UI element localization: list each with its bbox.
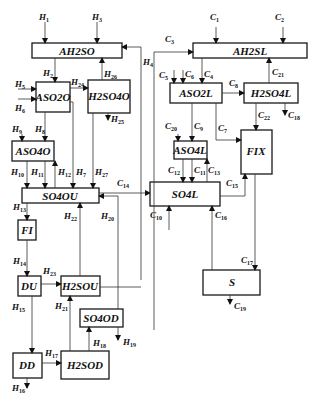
label-c9: C9 (194, 121, 203, 132)
svg-text:H2SOD: H2SOD (66, 359, 103, 371)
label-h1: H1 (38, 12, 49, 23)
box-aso2o: ASO2O (35, 82, 71, 112)
svg-text:FI: FI (20, 224, 33, 236)
box-fix: FIX (241, 130, 272, 174)
box-so4l: SO4L (150, 182, 220, 206)
flow-diagram: AH2SO ASO2O H2SO4O ASO4O SO4OU FI DU H2S… (0, 0, 316, 398)
label-h21: H21 (54, 301, 68, 312)
svg-text:H2SO4L: H2SO4L (250, 87, 292, 99)
svg-text:ASO2O: ASO2O (35, 91, 71, 103)
label-h17: H17 (44, 348, 58, 359)
label-c21: C21 (272, 67, 284, 78)
label-h2: H2 (42, 68, 53, 79)
label-h27: H27 (94, 167, 108, 178)
label-c11: C11 (194, 165, 206, 176)
label-c10: C10 (150, 210, 162, 221)
label-h15: H15 (11, 302, 25, 313)
label-h20: H20 (100, 211, 114, 222)
label-c7: C7 (218, 123, 227, 134)
svg-text:H2SO4O: H2SO4O (87, 90, 130, 102)
label-h24: H24 (70, 77, 84, 88)
label-h8: H8 (34, 124, 45, 135)
label-h9: H9 (11, 124, 22, 135)
label-h3: H3 (91, 12, 102, 23)
label-h25: H25 (110, 114, 124, 125)
svg-text:SO4OU: SO4OU (42, 190, 79, 202)
label-h4: H4 (142, 57, 153, 68)
label-h26: H26 (103, 69, 117, 80)
svg-text:ASO4O: ASO4O (15, 145, 51, 157)
box-aso4l: ASO4L (172, 141, 207, 159)
label-h19: H19 (122, 337, 136, 348)
svg-text:DU: DU (20, 280, 38, 292)
label-c22: C22 (258, 110, 270, 121)
label-c20: C20 (165, 121, 177, 132)
box-fi: FI (18, 220, 36, 240)
label-h12: H12 (57, 167, 71, 178)
box-s: S (203, 270, 260, 295)
box-ah2so: AH2SO (32, 43, 122, 58)
svg-text:FIX: FIX (246, 145, 267, 157)
label-c1: C1 (210, 12, 219, 23)
box-h2so4o: H2SO4O (87, 80, 130, 113)
label-h14: H14 (12, 256, 26, 267)
label-c5: C5 (159, 70, 168, 81)
label-h16: H16 (11, 383, 25, 394)
box-aso2l: ASO2L (170, 83, 222, 103)
label-c18: C18 (288, 110, 300, 121)
svg-text:S: S (229, 276, 235, 288)
box-ah2sl: AH2SL (193, 43, 307, 58)
box-du: DU (18, 276, 41, 296)
label-h11: H11 (30, 167, 44, 178)
label-h22: H22 (63, 211, 77, 222)
label-h6: H6 (14, 103, 25, 114)
box-aso4o: ASO4O (12, 141, 54, 161)
box-h2sou: H2SOU (61, 276, 100, 296)
label-c3: C3 (165, 34, 174, 45)
svg-text:AH2SO: AH2SO (58, 45, 95, 57)
box-dd: DD (13, 353, 42, 378)
svg-text:ASO2L: ASO2L (178, 87, 213, 99)
flow-lines-left (18, 22, 150, 388)
label-c6: C6 (185, 69, 194, 80)
label-c19: C19 (234, 301, 246, 312)
box-h2so4l: H2SO4L (244, 83, 298, 103)
svg-text:DD: DD (18, 359, 35, 371)
label-c15: C15 (226, 178, 238, 189)
label-h10: H10 (10, 167, 24, 178)
svg-text:AH2SL: AH2SL (232, 45, 268, 57)
label-h18: H18 (92, 338, 106, 349)
svg-text:H2SOU: H2SOU (61, 280, 99, 292)
svg-text:ASO4L: ASO4L (172, 144, 207, 156)
box-so4od: SO4OD (80, 309, 123, 327)
box-so4ou: SO4OU (22, 188, 99, 203)
box-h2sod: H2SOD (61, 351, 109, 379)
label-c13: C13 (208, 165, 220, 176)
label-h5: H5 (14, 79, 25, 90)
label-c4: C4 (204, 69, 213, 80)
svg-text:SO4OD: SO4OD (83, 312, 119, 324)
label-c16: C16 (215, 210, 227, 221)
label-c14: C14 (117, 178, 129, 189)
label-h7: H7 (75, 167, 86, 178)
svg-text:SO4L: SO4L (172, 188, 199, 200)
label-c8: C8 (229, 78, 238, 89)
label-h23: H23 (42, 266, 56, 277)
label-c2: C2 (275, 12, 284, 23)
label-c17: C17 (241, 255, 253, 266)
label-c12: C12 (168, 165, 180, 176)
